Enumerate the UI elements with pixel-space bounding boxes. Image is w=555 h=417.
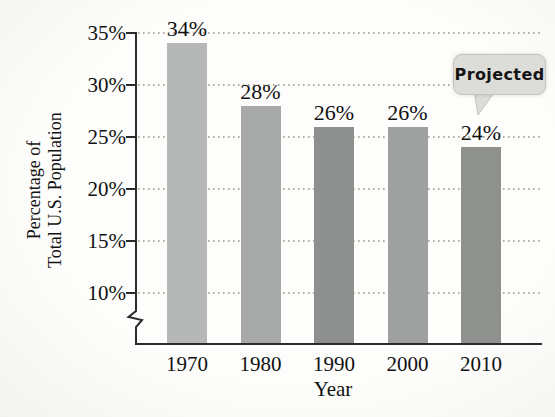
x-axis-tick-label: 1990: [297, 351, 371, 377]
x-axis-tick-label: 1980: [224, 351, 298, 377]
bar: [167, 43, 207, 343]
bar: [314, 127, 354, 343]
y-axis-tick-label: 35%: [40, 20, 126, 46]
bar: [461, 147, 501, 343]
bar-value-label: 26%: [302, 100, 366, 126]
y-axis-title-line1: Percentage of: [24, 72, 45, 308]
y-axis-title: Percentage of Total U.S. Population: [24, 72, 68, 308]
bar-value-label: 28%: [229, 79, 293, 105]
bar-value-label: 26%: [376, 100, 440, 126]
bar-value-label: 34%: [155, 16, 219, 42]
bar-value-label: 24%: [449, 120, 513, 146]
bar-chart: 35% 30% 25% 20% 15% 10% 34% 28% 26% 26% …: [0, 0, 555, 417]
x-axis-tick-label: 2010: [444, 351, 518, 377]
bar: [241, 106, 281, 343]
x-axis-title: Year: [283, 377, 383, 402]
bar: [388, 127, 428, 343]
x-axis-tick-label: 1970: [150, 351, 224, 377]
y-axis-title-line2: Total U.S. Population: [45, 72, 66, 308]
x-axis-tick-label: 2000: [371, 351, 445, 377]
projected-callout: Projected: [453, 54, 546, 95]
